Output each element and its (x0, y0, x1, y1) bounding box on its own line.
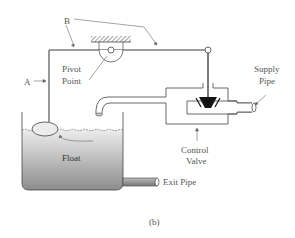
label-float: Float (62, 153, 81, 163)
label-b: B (64, 16, 70, 26)
pivot-mount (91, 36, 131, 62)
valve-plug (199, 97, 217, 108)
control-valve (166, 83, 256, 124)
inlet-spout (96, 97, 166, 116)
pivot-point (108, 47, 114, 53)
label-pivot-2: Point (62, 76, 82, 86)
exit-pipe (123, 178, 159, 186)
label-control-2: Valve (186, 156, 207, 166)
label-exit-pipe: Exit Pipe (163, 177, 196, 187)
label-a: A (24, 77, 31, 87)
figure-caption: (b) (149, 217, 160, 227)
label-control-1: Control (181, 145, 209, 155)
float (32, 122, 58, 136)
label-supply-1: Supply (254, 64, 280, 74)
label-pivot-1: Pivot (62, 64, 82, 74)
float-valve-diagram: A B Pivot Point Supply Pipe Float Contro… (0, 0, 295, 238)
label-supply-2: Pipe (259, 76, 275, 86)
